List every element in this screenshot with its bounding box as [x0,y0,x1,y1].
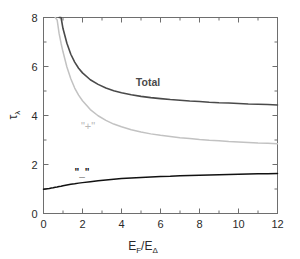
y-axis-title: τλ [6,111,22,120]
data-curves [44,18,278,190]
x-axis-ticks [44,18,278,214]
x-tick-label: 12 [271,218,283,230]
x-axis-tick-labels: 024681012 [40,218,283,230]
x-tick-label: 0 [40,218,46,230]
scientific-line-plot: 024681012 02468 Total "+" "_" EF/EΔ τλ [0,0,300,259]
y-title-sub-lambda: λ [13,111,22,115]
curve-Total [59,18,277,105]
y-tick-label: 0 [31,208,37,220]
x-axis-title: EF/EΔ [128,239,158,255]
x-title-sub-delta: Δ [152,246,158,255]
x-tick-label: 2 [79,218,85,230]
x-tick-label: 6 [157,218,163,230]
curve-label-minus: "_" [74,167,89,178]
y-tick-label: 4 [31,110,37,122]
y-tick-label: 2 [31,159,37,171]
y-tick-label: 8 [31,12,37,24]
svg-text:EF/EΔ: EF/EΔ [128,239,158,255]
curve-label-plus: "+" [81,120,95,132]
x-tick-label: 8 [196,218,202,230]
y-axis-ticks [44,18,278,214]
axes-frame [44,18,278,214]
x-title-slash: /E [141,239,152,253]
figure-container: 024681012 02468 Total "+" "_" EF/EΔ τλ [0,0,300,259]
x-tick-label: 10 [232,218,244,230]
y-axis-tick-labels: 02468 [31,12,37,220]
svg-text:τλ: τλ [6,111,22,120]
y-tick-label: 6 [31,61,37,73]
x-tick-label: 4 [118,218,124,230]
x-title-main: E [128,239,136,253]
curve-label-total: Total [136,76,160,88]
